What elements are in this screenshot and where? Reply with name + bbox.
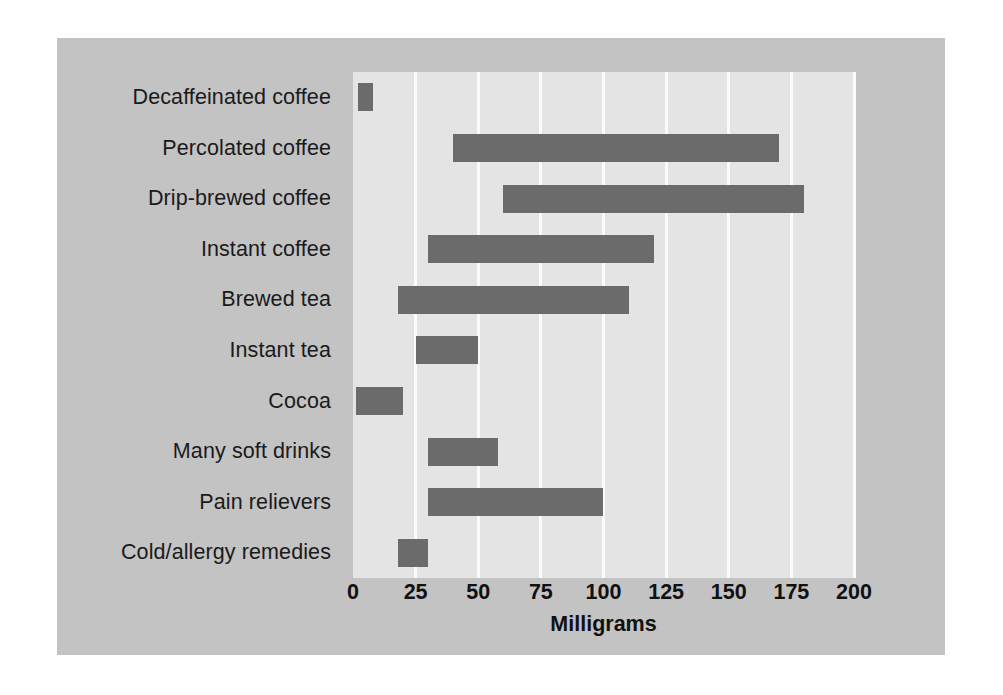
category-label-instant-tea: Instant tea — [229, 325, 331, 376]
bar-pain-relievers — [428, 488, 603, 516]
category-label-cocoa: Cocoa — [268, 376, 331, 427]
category-label-instant-coffee: Instant coffee — [201, 224, 331, 275]
gridline-200 — [853, 72, 856, 578]
bar-cold-allergy-remedies — [398, 539, 428, 567]
plot-area — [353, 72, 854, 578]
x-tick-150: 150 — [711, 580, 747, 605]
bar-instant-tea — [416, 336, 479, 364]
category-label-column: Decaffeinated coffeePercolated coffeeDri… — [57, 72, 343, 578]
gridline-25 — [414, 72, 417, 578]
bar-decaffeinated-coffee — [358, 83, 373, 111]
bar-drip-brewed-coffee — [503, 185, 804, 213]
bar-instant-coffee — [428, 235, 653, 263]
gridline-175 — [790, 72, 793, 578]
bar-brewed-tea — [398, 286, 628, 314]
x-tick-100: 100 — [586, 580, 622, 605]
bar-many-soft-drinks — [428, 438, 498, 466]
x-tick-25: 25 — [404, 580, 428, 605]
category-label-many-soft-drinks: Many soft drinks — [173, 426, 331, 477]
x-axis-tick-labels: 0255075100125150175200 — [353, 580, 854, 610]
x-axis-title: Milligrams — [353, 612, 854, 637]
bar-cocoa — [356, 387, 404, 415]
x-tick-175: 175 — [773, 580, 809, 605]
chart-figure: Decaffeinated coffeePercolated coffeeDri… — [57, 38, 945, 655]
x-tick-125: 125 — [648, 580, 684, 605]
x-tick-50: 50 — [466, 580, 490, 605]
bar-percolated-coffee — [453, 134, 779, 162]
category-label-percolated-coffee: Percolated coffee — [162, 123, 331, 174]
x-tick-200: 200 — [836, 580, 872, 605]
category-label-pain-relievers: Pain relievers — [199, 477, 331, 528]
x-tick-75: 75 — [529, 580, 553, 605]
category-label-decaffeinated-coffee: Decaffeinated coffee — [133, 72, 331, 123]
category-label-drip-brewed-coffee: Drip-brewed coffee — [148, 173, 331, 224]
x-tick-0: 0 — [347, 580, 359, 605]
category-label-brewed-tea: Brewed tea — [221, 274, 331, 325]
category-label-cold-allergy-remedies: Cold/allergy remedies — [121, 527, 331, 578]
